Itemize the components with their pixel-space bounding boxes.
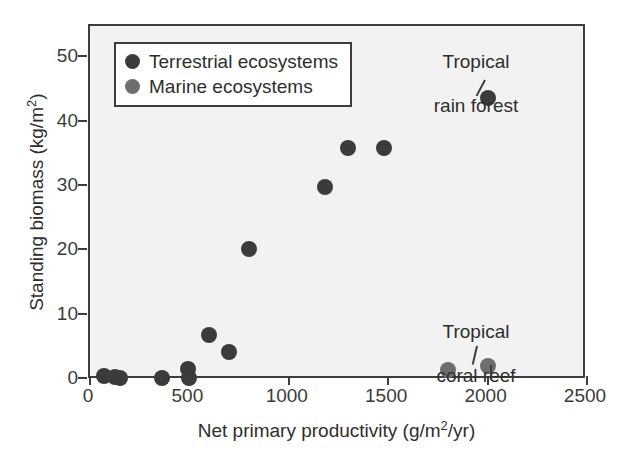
y-axis-tick-mark (78, 313, 87, 315)
y-axis-tick-mark (78, 120, 87, 122)
x-axis-tick-label: 2000 (446, 386, 526, 405)
y-axis-title-base: Standing biomass (kg/m (26, 107, 47, 311)
annotation-stem-coral-reef (490, 365, 492, 380)
x-axis-tick-label: 2500 (545, 386, 623, 405)
data-point-terrestrial (112, 370, 128, 386)
plot-area: Terrestrial ecosystems Marine ecosystems… (88, 24, 585, 378)
legend-item-marine: Marine ecosystems (125, 74, 338, 99)
annotation-line-2: rain forest (406, 95, 546, 117)
annotation-line-2: coral reef (406, 365, 546, 387)
x-axis-tick-label: 0 (48, 386, 128, 405)
x-axis-tick-label: 1000 (247, 386, 327, 405)
y-axis-title: Standing biomass (kg/m2) (24, 22, 48, 382)
x-axis-tick-mark (586, 376, 588, 385)
x-axis-title-sup: 2 (441, 418, 448, 433)
data-point-terrestrial (154, 370, 170, 386)
legend-marker-circle-icon (125, 54, 140, 69)
x-axis-title: Net primary productivity (g/m2/yr) (88, 418, 585, 442)
data-point-terrestrial (376, 140, 392, 156)
y-axis-title-tail: ) (26, 93, 47, 99)
legend-marker-circle-icon (125, 79, 140, 94)
data-point-terrestrial (241, 241, 257, 257)
y-axis-tick-mark (78, 377, 87, 379)
legend-label-marine: Marine ecosystems (149, 77, 313, 96)
x-axis-tick-mark (89, 376, 91, 385)
annotation-line-1: Tropical (406, 51, 546, 73)
y-axis-tick-mark (78, 184, 87, 186)
x-axis-tick-mark (387, 376, 389, 385)
legend: Terrestrial ecosystems Marine ecosystems (114, 42, 352, 107)
x-axis-tick-mark (288, 376, 290, 385)
data-point-terrestrial (201, 327, 217, 343)
data-point-terrestrial (221, 344, 237, 360)
legend-item-terrestrial: Terrestrial ecosystems (125, 49, 338, 74)
y-axis-tick-mark (78, 248, 87, 250)
annotation-tropical-rain-forest: Tropical rain forest (406, 29, 546, 139)
data-point-terrestrial (317, 179, 333, 195)
annotation-line-1: Tropical (406, 321, 546, 343)
x-axis-tick-label: 500 (147, 386, 227, 405)
data-point-terrestrial (340, 140, 356, 156)
legend-label-terrestrial: Terrestrial ecosystems (149, 52, 338, 71)
x-axis-tick-label: 1500 (346, 386, 426, 405)
x-axis-title-tail: /yr) (448, 420, 475, 441)
scatter-chart-figure: Terrestrial ecosystems Marine ecosystems… (0, 0, 623, 462)
x-axis-title-base: Net primary productivity (g/m (198, 420, 441, 441)
y-axis-title-sup: 2 (24, 100, 39, 107)
x-axis-tick-mark (188, 376, 190, 385)
y-axis-tick-mark (78, 55, 87, 57)
x-axis-tick-labels: 05001000150020002500 (88, 386, 585, 410)
